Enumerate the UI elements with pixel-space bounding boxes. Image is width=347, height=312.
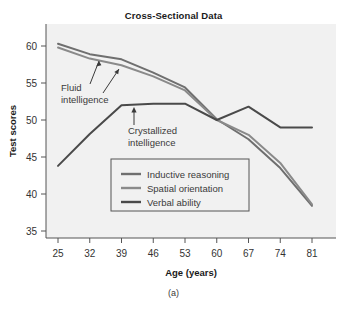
x-tick-label-39: 39 bbox=[116, 248, 128, 259]
x-axis-ticks bbox=[58, 238, 312, 243]
fluid-intelligence-label-line1: Fluid bbox=[61, 82, 82, 93]
chart-legend: Inductive reasoning Spatial orientation … bbox=[111, 159, 249, 211]
fluid-intelligence-label-line2: intelligence bbox=[61, 94, 109, 105]
x-tick-label-46: 46 bbox=[148, 248, 160, 259]
x-tick-label-81: 81 bbox=[306, 248, 318, 259]
x-tick-label-32: 32 bbox=[84, 248, 96, 259]
legend-label-inductive-reasoning: Inductive reasoning bbox=[147, 169, 229, 180]
y-tick-label-45: 45 bbox=[26, 152, 38, 163]
x-tick-label-60: 60 bbox=[211, 248, 223, 259]
crystallized-intelligence-label-line2: intelligence bbox=[128, 137, 176, 148]
crystallized-intelligence-label-line1: Crystallized bbox=[128, 125, 177, 136]
x-tick-label-53: 53 bbox=[179, 248, 191, 259]
legend-label-verbal-ability: Verbal ability bbox=[147, 197, 201, 208]
line-chart: 60 55 50 45 40 35 Test scores 25 32 39 4… bbox=[0, 0, 347, 312]
figure-caption: (a) bbox=[0, 288, 347, 298]
x-tick-label-67: 67 bbox=[243, 248, 255, 259]
y-axis-title: Test scores bbox=[7, 105, 18, 157]
y-tick-label-55: 55 bbox=[26, 78, 38, 89]
y-tick-label-50: 50 bbox=[26, 115, 38, 126]
figure-container: Cross-Sectional Data 60 55 50 45 40 35 T… bbox=[0, 0, 347, 312]
x-tick-label-74: 74 bbox=[275, 248, 287, 259]
y-tick-label-35: 35 bbox=[26, 226, 38, 237]
x-axis-title: Age (years) bbox=[165, 267, 217, 278]
y-tick-label-40: 40 bbox=[26, 189, 38, 200]
y-tick-label-60: 60 bbox=[26, 41, 38, 52]
y-axis-ticks bbox=[41, 46, 46, 231]
x-tick-label-25: 25 bbox=[52, 248, 64, 259]
legend-label-spatial-orientation: Spatial orientation bbox=[147, 183, 223, 194]
